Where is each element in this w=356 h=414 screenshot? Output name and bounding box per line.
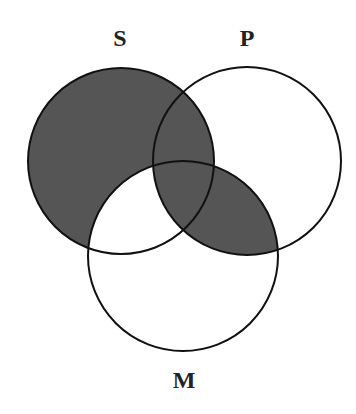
venn-diagram: S P M — [0, 0, 356, 414]
label-p: P — [240, 25, 255, 51]
label-s: S — [113, 25, 126, 51]
label-m: M — [173, 367, 196, 393]
